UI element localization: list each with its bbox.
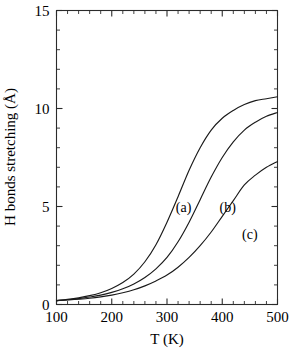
curve-label-c: (c) bbox=[242, 227, 258, 243]
line-chart: 100200300400500 051015 (a)(b)(c) T (K) H… bbox=[0, 0, 294, 350]
x-tick-label: 500 bbox=[266, 309, 289, 325]
curve-label-a: (a) bbox=[176, 200, 192, 216]
y-tick-label: 0 bbox=[42, 297, 50, 313]
y-tick-label: 5 bbox=[42, 199, 50, 215]
y-tick-label: 15 bbox=[35, 3, 50, 19]
x-tick-label: 400 bbox=[211, 309, 234, 325]
y-axis-title: H bonds stretching (Å) bbox=[2, 88, 19, 226]
y-tick-label: 10 bbox=[35, 101, 50, 117]
curve-label-b: (b) bbox=[220, 200, 237, 216]
x-axis-title: T (K) bbox=[150, 331, 183, 348]
x-tick-label: 200 bbox=[101, 309, 124, 325]
x-tick-label: 300 bbox=[156, 309, 179, 325]
figure-container: 100200300400500 051015 (a)(b)(c) T (K) H… bbox=[0, 0, 294, 350]
